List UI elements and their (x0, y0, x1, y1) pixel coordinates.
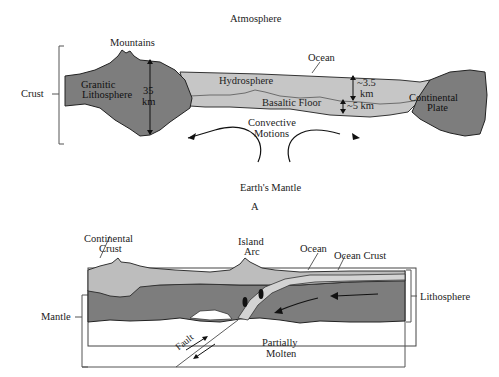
motions-label: Motions (254, 128, 289, 139)
arc-label: Arc (244, 246, 260, 257)
granitic-lithosphere-label: Lithosphere (82, 89, 132, 100)
crust-label: Crust (21, 88, 44, 99)
partially-label: Partially (262, 337, 298, 348)
hydrosphere-label: Hydrosphere (219, 75, 273, 86)
lithosphere-label: Lithosphere (420, 291, 470, 302)
convective-label: Convective (248, 117, 296, 128)
earths-mantle-label: Earth's Mantle (240, 182, 301, 193)
thickness-35-label: 35 (143, 85, 154, 96)
basaltic-floor-label: Basaltic Floor (262, 97, 321, 108)
plate-label: Plate (427, 102, 448, 113)
ocean-crust-label: Ocean Crust (334, 250, 386, 261)
caption-a: A (251, 201, 259, 212)
continental-plate (412, 70, 487, 136)
convection-arrow-left (188, 127, 261, 162)
ocean-label: Ocean (308, 52, 335, 63)
mantle-label: Mantle (41, 311, 71, 322)
ocean-label-b: Ocean (300, 243, 327, 254)
molten-label: Molten (266, 348, 296, 359)
atmosphere-label: Atmosphere (230, 13, 281, 24)
crust-label-b: Crust (99, 243, 122, 254)
mountains-label: Mountains (110, 37, 155, 48)
floor-depth-label: ~5 km (347, 100, 374, 111)
ocean-depth-unit-label: km (360, 88, 373, 99)
ocean-depth-label: ~3.5 (357, 77, 376, 88)
convection-arrow-right (288, 130, 340, 162)
hydrosphere-layer (180, 72, 430, 117)
thickness-km-label: km (142, 96, 155, 107)
crust-bracket (59, 46, 64, 144)
